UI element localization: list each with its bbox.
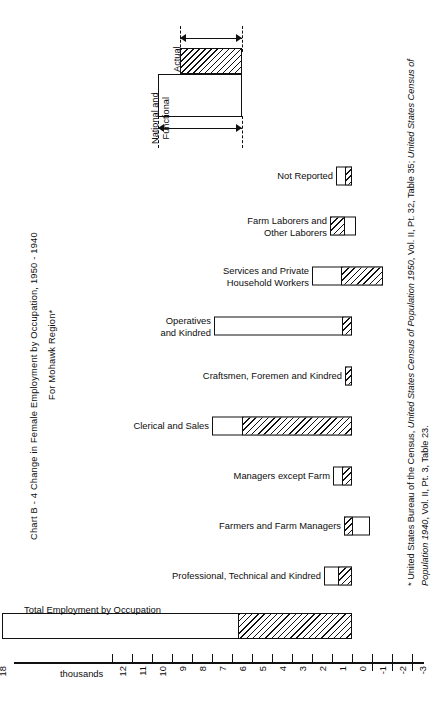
- axis-tick-label: 9: [177, 666, 188, 671]
- axis-tick-label: 4: [277, 666, 288, 671]
- axis-tick: [412, 654, 413, 662]
- axis-tick-label: 12: [117, 666, 128, 676]
- bar-label: Farm Laborers andOther Laborers: [247, 215, 328, 238]
- axis-line: [14, 662, 424, 664]
- axis-tick: [192, 654, 193, 662]
- bar-segment-actual: [342, 317, 352, 336]
- bar-row: Clerical and Sales: [0, 406, 436, 446]
- bar-row: Total Employment by Occupation: [0, 606, 436, 646]
- bar-segment-actual: [345, 367, 352, 386]
- bar-row: Operativesand Kindred: [0, 306, 436, 346]
- bar-row: Farm Laborers andOther Laborers: [0, 206, 436, 246]
- axis-tick: [392, 654, 393, 662]
- axis-tick-negative-extension: [392, 664, 393, 671]
- legend-label-national-functional: National andFunctional: [150, 92, 171, 144]
- axis-tick-label: 5: [257, 666, 268, 671]
- axis-tick: [312, 654, 313, 662]
- bar-row: Services and PrivateHousehold Workers: [0, 256, 436, 296]
- axis-tick-negative-extension: [412, 664, 413, 671]
- bar-label: Total Employment by Occupation: [24, 604, 162, 616]
- bar-label: Craftsmen, Foremen and Kindred: [203, 370, 343, 382]
- bar-segment-actual: [341, 267, 383, 286]
- x-axis: thousands 20181211109876543210-1-2-3≈≈: [0, 662, 436, 709]
- bar-segment-actual: [344, 517, 353, 536]
- axis-tick-label: 8: [197, 666, 208, 671]
- bar-row: Not Reported: [0, 156, 436, 196]
- axis-tick-label: -2: [397, 666, 408, 674]
- bar-label: Not Reported: [277, 170, 334, 182]
- bar-segment-actual: [238, 613, 352, 639]
- bar-segment-national-functional: [214, 317, 352, 336]
- axis-tick-label: 2: [317, 666, 328, 671]
- axis-tick-label: 6: [237, 666, 248, 671]
- bar-label: Operativesand Kindred: [160, 315, 212, 338]
- chart-canvas: Chart B - 4 Change in Female Employment …: [0, 0, 436, 709]
- legend-label-actual: Actual: [172, 46, 183, 72]
- bar-segment-actual: [342, 467, 352, 486]
- bar-segment-actual: [330, 217, 345, 236]
- bar-label: Services and PrivateHousehold Workers: [223, 265, 310, 288]
- bar-segment-actual: [242, 417, 352, 436]
- axis-unit-label: thousands: [60, 668, 103, 679]
- axis-tick-label: -1: [377, 666, 388, 674]
- axis-tick: [232, 654, 233, 662]
- legend: Actual National andFunctional: [130, 12, 262, 140]
- axis-tick: [132, 654, 133, 662]
- axis-tick-label: 7: [217, 666, 228, 671]
- bar-row: Managers except Farm: [0, 456, 436, 496]
- axis-tick: [252, 654, 253, 662]
- bar-label: Managers except Farm: [234, 470, 331, 482]
- bar-row: Farmers and Farm Managers: [0, 506, 436, 546]
- axis-tick-label: 11: [137, 666, 148, 676]
- axis-tick-label: 3: [297, 666, 308, 671]
- bar-label: Farmers and Farm Managers: [219, 520, 342, 532]
- bar-segment-actual: [338, 567, 352, 586]
- legend-arrow-actual: [180, 34, 242, 43]
- axis-tick-negative-extension: [372, 664, 373, 671]
- axis-tick: [372, 654, 373, 662]
- bar-label: Clerical and Sales: [133, 420, 210, 432]
- axis-tick: [332, 654, 333, 662]
- legend-swatch-actual: [180, 48, 242, 74]
- axis-tick: [172, 654, 173, 662]
- axis-tick-label: 1: [337, 666, 348, 671]
- bar-row: Craftsmen, Foremen and Kindred: [0, 356, 436, 396]
- axis-tick-label: 18: [0, 666, 8, 676]
- axis-tick-label: 0: [357, 666, 368, 671]
- bar-segment-actual: [345, 167, 352, 186]
- bar-row: Professional, Technical and Kindred: [0, 556, 436, 596]
- axis-tick-label: -3: [417, 666, 428, 674]
- axis-tick: [352, 654, 353, 662]
- axis-tick: [112, 654, 113, 662]
- axis-tick: [212, 654, 213, 662]
- axis-tick: [272, 654, 273, 662]
- axis-tick-label: 10: [157, 666, 168, 676]
- axis-tick: [152, 654, 153, 662]
- bar-label: Professional, Technical and Kindred: [172, 570, 322, 582]
- plot-area: Not ReportedFarm Laborers andOther Labor…: [0, 150, 436, 650]
- axis-tick: [292, 654, 293, 662]
